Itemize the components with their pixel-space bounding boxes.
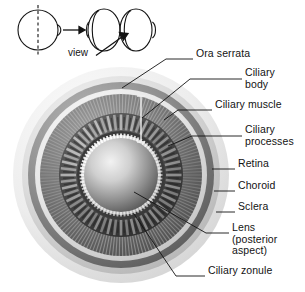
label-ora-serrata: Ora serrata [196,48,250,60]
label-ciliary-muscle: Ciliary muscle [215,99,282,111]
inset-half-right [120,9,155,51]
inset-whole-eye [18,10,61,50]
label-retina: Retina [238,158,269,170]
label-ciliary-processes: Ciliary processes [245,124,294,147]
inset-view-label: view [68,47,88,58]
label-sclera: Sclera [238,201,268,213]
label-ciliary-zonule: Ciliary zonule [208,265,272,277]
label-choroid: Choroid [238,180,275,192]
label-ciliary-body: Ciliary body [245,67,275,90]
inset-view-pointer [96,33,128,56]
inset-half-left [86,9,120,51]
inset-arrow [63,27,85,34]
figure-canvas: view Ora serrata Ciliary body Ciliary mu… [0,0,305,292]
label-lens: Lens (posterior aspect) [232,222,277,257]
